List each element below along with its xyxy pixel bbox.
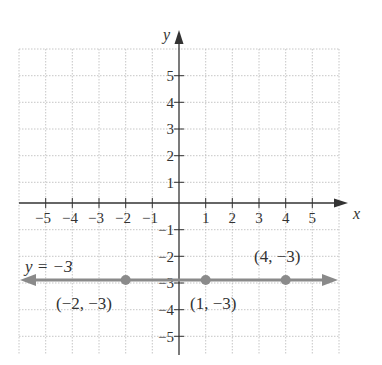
x-axis-label: x bbox=[352, 205, 360, 222]
y-tick-label: −4 bbox=[158, 302, 174, 318]
point-label-b: (1, −3) bbox=[190, 294, 236, 313]
coordinate-plane: −5 −4 −3 −2 −1 1 2 3 4 5 x bbox=[0, 0, 382, 365]
y-axis-arrow-icon bbox=[175, 30, 184, 44]
y-axis: 5 4 3 2 1 −1 −2 −3 −4 −5 y bbox=[158, 26, 184, 355]
x-tick-label: −4 bbox=[62, 210, 78, 226]
x-tick-label: 1 bbox=[202, 210, 210, 226]
y-tick-label: −3 bbox=[158, 275, 174, 291]
y-tick-label: 4 bbox=[167, 95, 175, 111]
y-tick-label: 5 bbox=[167, 68, 175, 84]
y-tick-label: 2 bbox=[167, 148, 175, 164]
x-tick-label: 5 bbox=[309, 210, 317, 226]
line-right-arrow-icon bbox=[322, 274, 338, 286]
x-tick-label: −1 bbox=[142, 210, 158, 226]
equation-label: y = −3 bbox=[23, 257, 73, 276]
x-tick-label: −3 bbox=[88, 210, 104, 226]
y-tick-label: −5 bbox=[158, 329, 174, 345]
y-tick-label: 1 bbox=[167, 175, 175, 191]
x-tick-label: −2 bbox=[115, 210, 131, 226]
y-tick-label: −1 bbox=[158, 222, 174, 238]
point-label-a: (−2, −3) bbox=[56, 294, 112, 313]
equation-text: y = −3 bbox=[23, 257, 73, 276]
x-axis-arrow-icon bbox=[334, 199, 348, 208]
point-label-c: (4, −3) bbox=[254, 247, 300, 266]
y-tick-label: 3 bbox=[167, 121, 175, 137]
x-axis: −5 −4 −3 −2 −1 1 2 3 4 5 x bbox=[19, 198, 360, 226]
x-tick-label: 2 bbox=[229, 210, 237, 226]
x-tick-label: 3 bbox=[255, 210, 263, 226]
x-tick-label: −5 bbox=[35, 210, 51, 226]
y-axis-label: y bbox=[161, 26, 171, 44]
y-tick-label: −2 bbox=[158, 249, 174, 265]
point-minus2-minus3 bbox=[121, 275, 131, 285]
x-tick-label: 4 bbox=[282, 210, 290, 226]
point-4-minus3 bbox=[281, 275, 291, 285]
point-1-minus3 bbox=[201, 275, 211, 285]
